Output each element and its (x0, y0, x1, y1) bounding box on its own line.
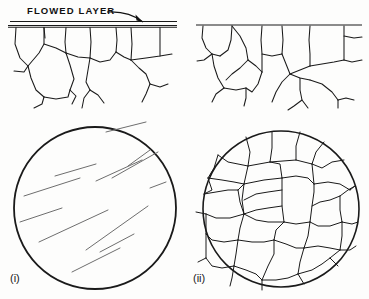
grain-boundaries-top-left (14, 28, 172, 109)
flowed-layer-band (8, 22, 177, 28)
panel-label-ii: (ii) (193, 272, 205, 284)
micrograph-circle-i (14, 127, 176, 289)
flowed-layer-annotation: FLOWED LAYER (27, 5, 115, 16)
microstructure-figure: FLOWED LAYER (i) (ii) (0, 0, 369, 299)
panel-label-i: (i) (10, 272, 20, 284)
figure-linework (0, 0, 369, 299)
grain-boundaries-top-right (197, 26, 362, 110)
